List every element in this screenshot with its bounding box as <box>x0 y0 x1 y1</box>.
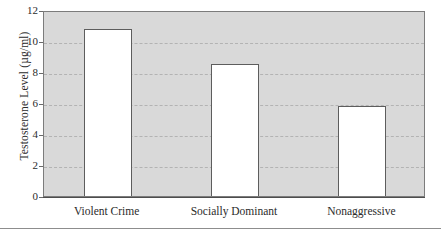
plot-area <box>43 11 425 197</box>
bar-chart-figure: Testosterone Level (µg/ml) 024681012 Vio… <box>0 0 441 236</box>
y-axis-tick-mark <box>39 197 43 198</box>
y-axis-tick-label: 10 <box>12 36 38 47</box>
y-axis-tick-mark <box>39 166 43 167</box>
bottom-divider-rule <box>0 228 441 229</box>
y-axis-tick-mark <box>39 73 43 74</box>
y-axis-tick-label: 12 <box>12 5 38 16</box>
y-axis-tick-labels: 024681012 <box>8 0 38 236</box>
bar <box>211 64 259 196</box>
y-axis-tick-label: 6 <box>12 98 38 109</box>
x-axis-tick-label: Violent Crime <box>37 204 177 218</box>
y-axis-tick-label: 0 <box>12 191 38 202</box>
y-axis-tick-mark <box>39 104 43 105</box>
x-axis-tick-label: Socially Dominant <box>164 204 304 218</box>
y-axis-tick-label: 4 <box>12 129 38 140</box>
y-axis-tick-label: 2 <box>12 160 38 171</box>
y-axis-tick-mark <box>39 11 43 12</box>
bar <box>338 106 386 196</box>
y-axis-tick-label: 8 <box>12 67 38 78</box>
x-axis-tick-label: Nonaggressive <box>291 204 431 218</box>
x-axis-line <box>43 197 425 198</box>
y-axis-tick-mark <box>39 42 43 43</box>
bar <box>84 29 132 196</box>
y-axis-tick-mark <box>39 135 43 136</box>
